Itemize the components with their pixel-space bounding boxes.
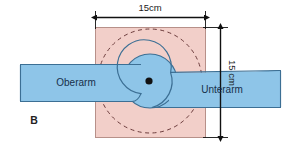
anatomical-diagram: 15cm 15 cm Oberarm Unterarm B: [0, 0, 291, 153]
upper-arm-label: Oberarm: [56, 77, 95, 88]
forearm-label: Unterarm: [201, 84, 243, 95]
dim-width-label: 15cm: [138, 2, 161, 13]
dim-height-label: 15 cm: [227, 60, 238, 86]
figure-panel-b: 15cm 15 cm Oberarm Unterarm B: [0, 0, 291, 153]
pivot-center-dot: [145, 77, 152, 84]
panel-letter-label: B: [30, 114, 38, 126]
